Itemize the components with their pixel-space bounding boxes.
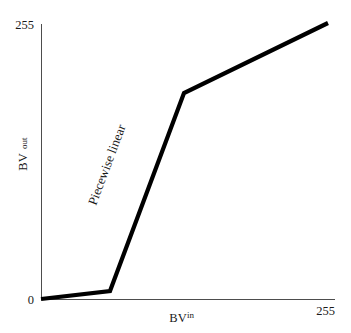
- y-axis-min-tick-label: 0: [28, 293, 34, 307]
- x-axis-title-subscript: in: [187, 310, 195, 320]
- x-axis-title-main: BV: [169, 311, 186, 325]
- x-axis-max-tick-label: 255: [316, 304, 335, 318]
- y-axis-title-subscript: out: [19, 137, 29, 149]
- y-axis-title-main: BV: [16, 153, 30, 170]
- y-axis-title: BV out: [16, 137, 30, 171]
- x-axis-title: BV in: [169, 310, 194, 325]
- y-axis-max-tick-label: 255: [15, 18, 34, 32]
- curve-annotation-label: Piecewise linear: [85, 122, 129, 207]
- piecewise-linear-curve: [41, 23, 328, 299]
- piecewise-linear-chart: 255 0 255 BV out BV in Piecewise linear: [0, 0, 351, 333]
- chart-canvas: 255 0 255 BV out BV in Piecewise linear: [0, 0, 351, 333]
